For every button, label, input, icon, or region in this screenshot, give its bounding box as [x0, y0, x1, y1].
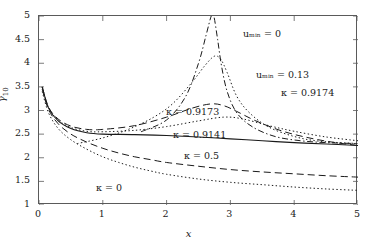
y-tick-label: 5 — [2, 10, 30, 20]
anno-kappa-9174: κ = 0.9174 — [281, 88, 334, 98]
figure: 11.522.533.544.55 γ10 012345 x uₘᵢₙ = 0u… — [0, 0, 377, 246]
anno-umin-0: uₘᵢₙ = 0 — [243, 29, 281, 39]
y-tick-label: 4.5 — [2, 34, 30, 44]
y-tick-label: 2 — [2, 152, 30, 162]
anno-kappa-0: κ = 0 — [96, 183, 122, 193]
anno-kappa-05: κ = 0.5 — [184, 151, 219, 161]
x-tick-label: 4 — [281, 209, 305, 219]
anno-kappa-9173: κ = 0.9173 — [166, 107, 219, 117]
anno-kappa-9141: κ = 0.9141 — [173, 130, 226, 140]
x-axis-title: x — [0, 228, 377, 239]
y-tick-label: 4 — [2, 57, 30, 67]
y-tick-label: 3 — [2, 105, 30, 115]
x-tick-label: 3 — [217, 209, 241, 219]
x-tick-label: 2 — [154, 209, 178, 219]
x-tick-label: 0 — [26, 209, 50, 219]
y-axis-title: γ10 — [0, 87, 10, 102]
x-tick-label: 1 — [90, 209, 114, 219]
anno-umin-013: uₘᵢₙ = 0.13 — [256, 70, 309, 80]
y-tick-label: 2.5 — [2, 128, 30, 138]
y-tick-label: 1.5 — [2, 175, 30, 185]
y-tick-label: 1 — [2, 199, 30, 209]
x-tick-label: 5 — [345, 209, 369, 219]
